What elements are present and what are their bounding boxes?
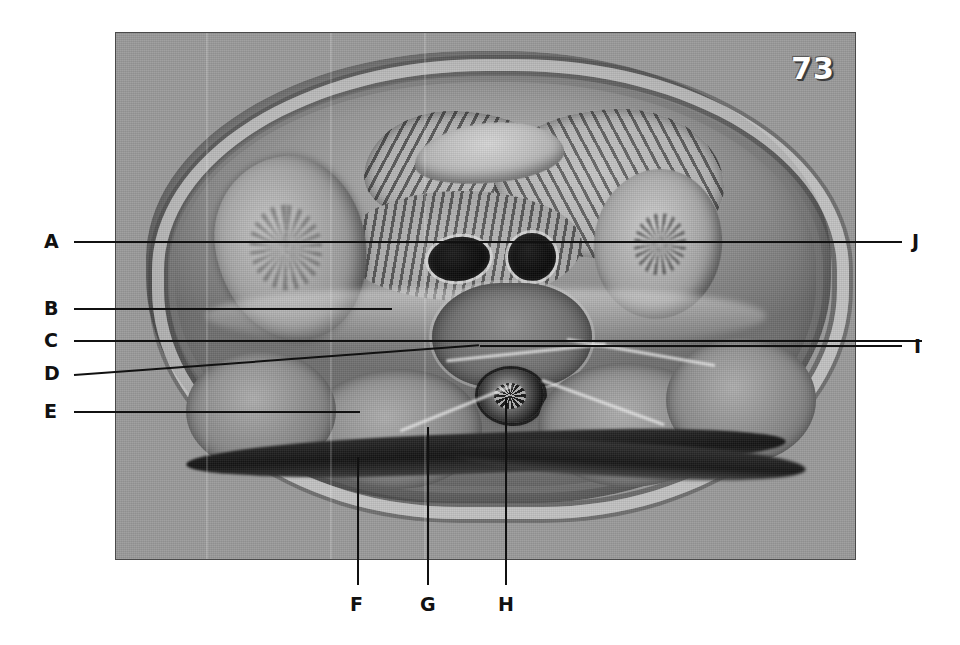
label-a: A	[44, 232, 59, 251]
page-number: 73	[791, 51, 835, 86]
scan-seam-2	[330, 33, 332, 559]
figure-page: 73 A B C D E J I F G H	[0, 0, 960, 645]
label-b: B	[44, 299, 58, 318]
scan-seam-3	[424, 33, 426, 559]
label-i: I	[914, 337, 921, 356]
label-g: G	[420, 595, 436, 614]
abdominal-aorta	[508, 233, 556, 281]
label-h: H	[498, 595, 514, 614]
anatomy-plate: 73	[115, 32, 856, 560]
label-d: D	[44, 364, 60, 383]
label-j: J	[912, 232, 919, 251]
cross-section-specimen	[146, 51, 831, 521]
scan-seam-1	[206, 33, 208, 559]
label-c: C	[44, 331, 58, 350]
label-f: F	[350, 595, 363, 614]
label-e: E	[44, 402, 57, 421]
